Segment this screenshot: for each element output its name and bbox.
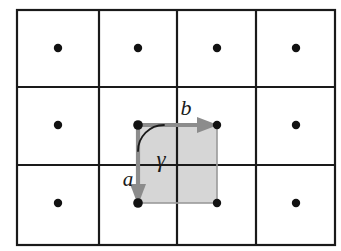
lattice-dot	[133, 120, 143, 130]
angle-gamma-label: γ	[156, 147, 166, 172]
lattice-dot	[213, 121, 221, 129]
lattice-dot	[133, 198, 143, 208]
lattice-dot	[292, 44, 300, 52]
lattice-dot	[292, 199, 300, 207]
vector-a-label: a	[123, 167, 134, 191]
lattice-dot	[54, 199, 62, 207]
vector-b-label: b	[181, 95, 192, 120]
lattice-dot	[213, 44, 221, 52]
lattice-diagram-canvas: b a γ	[0, 0, 341, 251]
grid-vertical-lines	[99, 10, 256, 245]
lattice-dot	[292, 121, 300, 129]
lattice-dot	[54, 44, 62, 52]
lattice-dot	[134, 44, 142, 52]
lattice-dot	[54, 121, 62, 129]
lattice-figure: b a γ	[0, 0, 341, 251]
lattice-dot	[213, 199, 221, 207]
